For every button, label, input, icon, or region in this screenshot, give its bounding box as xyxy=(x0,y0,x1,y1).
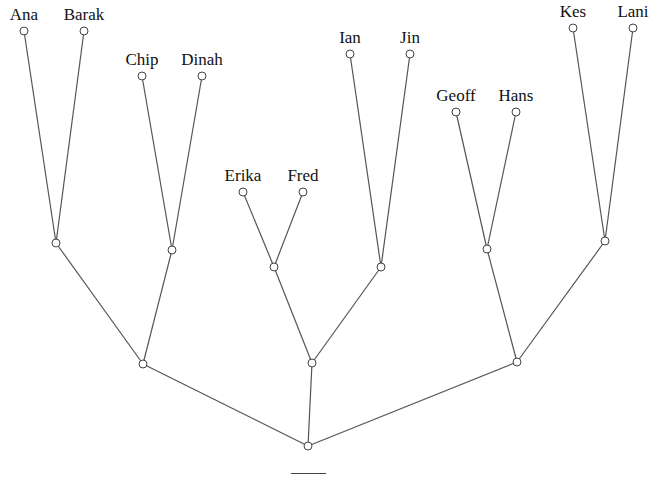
tree-edge xyxy=(573,28,605,241)
leaf-label-chip: Chip xyxy=(125,51,158,68)
leaf-label-dinah: Dinah xyxy=(181,51,223,68)
tree-edge xyxy=(350,54,381,267)
tree-edge xyxy=(605,28,633,241)
leaf-label-geoff: Geoff xyxy=(436,87,475,104)
leaf-label-erika: Erika xyxy=(225,167,262,184)
tree-edge xyxy=(517,241,605,362)
tree-edge xyxy=(308,363,312,446)
tree-edges xyxy=(24,28,633,446)
leaf-label-fred: Fred xyxy=(287,167,318,184)
leaf-node-erika xyxy=(239,188,247,196)
leaf-node-ian xyxy=(346,50,354,58)
leaf-label-hans: Hans xyxy=(499,87,534,104)
leaf-node-fred xyxy=(299,188,307,196)
tree-edge xyxy=(143,250,172,364)
tree-edge xyxy=(308,362,517,446)
leaf-label-jin: Jin xyxy=(400,29,420,46)
internal-node-root xyxy=(304,442,312,450)
tree-edge xyxy=(274,267,312,363)
internal-node-gh xyxy=(483,245,491,253)
internal-node-cd xyxy=(168,246,176,254)
leaf-label-lani: Lani xyxy=(617,3,648,20)
leaf-node-barak xyxy=(80,27,88,35)
internal-node-abcd xyxy=(139,360,147,368)
leaf-label-ana: Ana xyxy=(10,6,38,23)
internal-node-ab xyxy=(52,239,60,247)
tree-edge xyxy=(243,192,274,267)
leaf-label-kes: Kes xyxy=(560,3,586,20)
tree-edge xyxy=(56,243,143,364)
internal-node-ghkl xyxy=(513,358,521,366)
leaf-node-chip xyxy=(138,72,146,80)
leaf-node-dinah xyxy=(198,72,206,80)
tree-edge xyxy=(312,267,381,363)
internal-node-ef xyxy=(270,263,278,271)
tree-edge xyxy=(274,192,303,267)
leaf-node-kes xyxy=(569,24,577,32)
internal-node-ij xyxy=(377,263,385,271)
scale-bar xyxy=(291,473,326,474)
tree-edge xyxy=(487,249,517,362)
leaf-node-ana xyxy=(20,27,28,35)
leaf-node-hans xyxy=(512,108,520,116)
tree-nodes xyxy=(20,24,637,450)
tree-edge xyxy=(172,76,202,250)
tree-edge xyxy=(487,112,516,249)
leaf-label-ian: Ian xyxy=(339,29,361,46)
leaf-label-barak: Barak xyxy=(64,6,105,23)
leaf-node-lani xyxy=(629,24,637,32)
internal-node-kl xyxy=(601,237,609,245)
phylogenetic-tree xyxy=(0,0,662,480)
tree-edge xyxy=(142,76,172,250)
tree-edge xyxy=(456,112,487,249)
tree-edge xyxy=(143,364,308,446)
tree-edge xyxy=(381,54,410,267)
leaf-node-jin xyxy=(406,50,414,58)
tree-edge xyxy=(56,31,84,243)
tree-edge xyxy=(24,31,56,243)
internal-node-efij xyxy=(308,359,316,367)
leaf-node-geoff xyxy=(452,108,460,116)
